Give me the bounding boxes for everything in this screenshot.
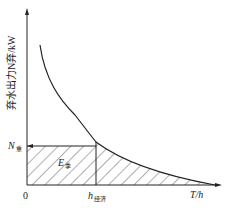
x-axis-arrow-icon [215,183,222,187]
energy-label: E [57,157,64,168]
n-level-sub: 重 [16,145,22,152]
n-level-label: N [7,140,16,151]
diagram: 弃水出力N弃/kW T/h 0 N 重 E 季 h 经济 [0,0,225,212]
x-axis-label: T/h [190,189,203,200]
diagram-svg: 弃水出力N弃/kW T/h 0 N 重 E 季 h 经济 [0,0,225,212]
hatched-tail-region [96,142,215,185]
y-axis-arrow-icon [25,8,29,15]
origin-label: 0 [23,190,28,201]
h-sub: 经济 [94,195,106,203]
h-label: h [88,190,93,201]
y-axis-label: 弃水出力N弃/kW [5,35,17,110]
energy-sub: 季 [65,162,71,170]
